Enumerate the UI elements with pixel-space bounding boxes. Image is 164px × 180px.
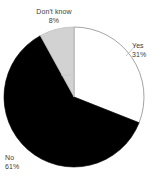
pie-label-dont-know: Don't know 8% (26, 8, 82, 25)
pie-label-yes-value: 31% (132, 51, 162, 60)
pie-label-yes: Yes 31% (132, 42, 162, 59)
pie-label-no-value: 61% (5, 163, 37, 172)
pie-label-no: No 61% (5, 154, 37, 171)
pie-label-dont-know-name: Don't know (26, 8, 82, 17)
pie-label-yes-name: Yes (132, 42, 162, 51)
pie-chart-graphic (0, 0, 164, 180)
pie-chart-figure: Don't know 8% Yes 31% No 61% (0, 0, 164, 180)
pie-label-dont-know-value: 8% (26, 17, 82, 26)
pie-label-no-name: No (5, 154, 37, 163)
